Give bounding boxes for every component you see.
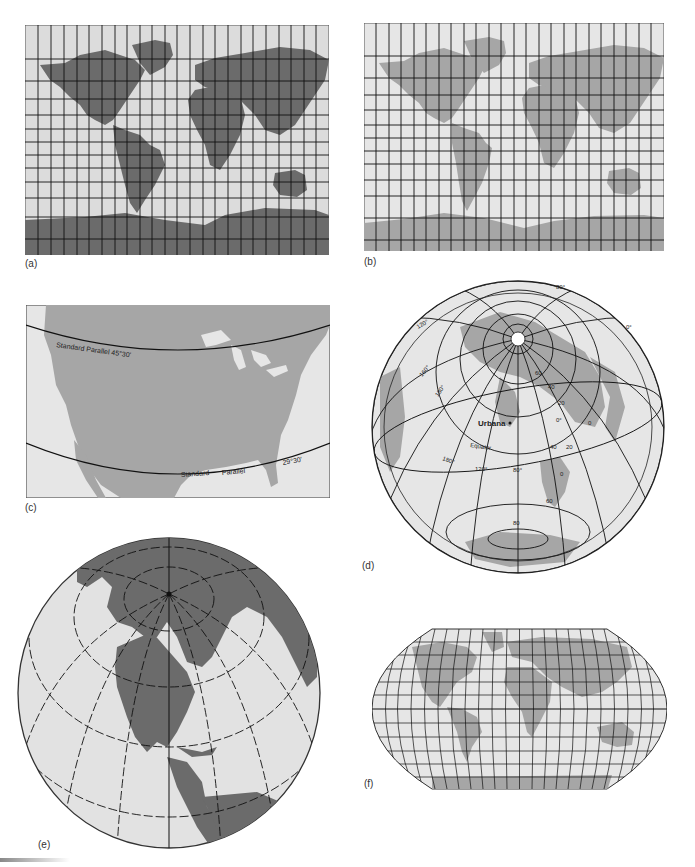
panel-e-label: (e) [38, 839, 50, 850]
robinson-map [372, 627, 667, 791]
lat-label-20-south: 20 [566, 444, 573, 450]
lat-label-60: 60 [535, 370, 542, 376]
orthographic-globe [17, 537, 322, 849]
lat-label-60-south: 60 [546, 498, 553, 504]
lon-label-120-bottom: 120° [475, 466, 488, 472]
lat-label-80-south: 80 [513, 520, 520, 526]
urbana-marker [509, 422, 512, 425]
lat-label-0-mid: 0° [556, 417, 562, 423]
conic-us-map: Standard Parallel 45°30' Standard Parall… [26, 305, 330, 498]
lat-label-0-top: 0° [626, 324, 632, 330]
panel-f-label: (f) [364, 778, 373, 789]
world-map-b [364, 23, 664, 251]
lat-label-40: 40 [548, 384, 555, 390]
panel-d-label: (d) [362, 560, 374, 571]
world-map-a [25, 25, 329, 255]
panel-a-label: (a) [25, 258, 37, 269]
decorative-bar [0, 858, 70, 862]
panel-d-map: 80° 0° 120° 160° 180° 60 40 20 0° 0 20 4… [370, 277, 667, 577]
azimuthal-map: 80° 0° 120° 160° 180° 60 40 20 0° 0 20 4… [370, 277, 667, 577]
panel-b-map [364, 23, 664, 251]
urbana-label: Urbana [478, 419, 506, 428]
panel-a-map [25, 25, 329, 255]
panel-c-map: Standard Parallel 45°30' Standard Parall… [26, 305, 330, 498]
lat-label-40-south: 40 [550, 444, 557, 450]
lat-label-20: 20 [558, 400, 565, 406]
lon-label-80-bottom: 80° [513, 467, 523, 473]
panel-f-map [372, 627, 667, 791]
panel-b-label: (b) [364, 256, 376, 267]
lat-label-80-top: 80° [556, 284, 566, 290]
panel-c-label: (c) [25, 502, 37, 513]
panel-e-globe [17, 537, 322, 849]
